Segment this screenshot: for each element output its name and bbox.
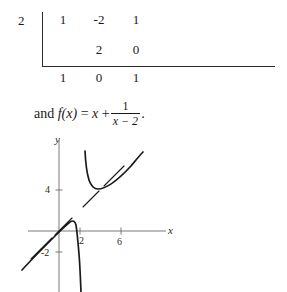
y-tick-label-4: 4 xyxy=(45,184,50,195)
formula-function-name: f(x) xyxy=(58,106,77,121)
fraction-denominator: x − 2 xyxy=(111,115,140,128)
x-axis-label: x xyxy=(167,224,173,236)
x-tick-label-2: 2 xyxy=(79,235,84,246)
table-row: 1 0 1 xyxy=(42,70,182,86)
carry-value-1: 2 xyxy=(87,42,111,58)
formula-fraction: 1x − 2 xyxy=(111,100,140,128)
curve-right-branch xyxy=(85,151,143,189)
synthetic-division-table: 2 1 -2 1 2 0 1 0 1 xyxy=(0,0,287,92)
fraction-numerator: 1 xyxy=(111,100,140,112)
table-row: 1 -2 1 xyxy=(42,12,182,28)
quotient-value-1: 0 xyxy=(87,70,111,86)
worked-solution-figure: 2 1 -2 1 2 0 1 0 1 and f(x) = x +1x − 2. xyxy=(0,0,287,292)
function-formula: and f(x) = x +1x − 2. xyxy=(34,100,145,128)
graph-ticks xyxy=(56,190,122,252)
quotient-remainder: 1 xyxy=(124,70,148,86)
dividend-coefficient-1: -2 xyxy=(87,12,111,28)
formula-prefix: and xyxy=(34,106,54,121)
y-axis-label: y xyxy=(54,133,60,145)
table-row: 2 0 xyxy=(42,42,182,58)
formula-linear-term: x xyxy=(92,106,98,121)
x-tick-label-6: 6 xyxy=(117,236,122,247)
function-graph: 2 6 4 -2 y x xyxy=(0,128,287,292)
quotient-value-0: 1 xyxy=(51,70,75,86)
dividend-coefficient-0: 1 xyxy=(51,12,75,28)
carry-value-2: 0 xyxy=(124,42,148,58)
formula-period: . xyxy=(141,106,145,121)
dividend-coefficient-2: 1 xyxy=(124,12,148,28)
graph-axes xyxy=(28,140,166,292)
formula-plus: + xyxy=(102,106,110,121)
synthetic-division-divisor: 2 xyxy=(18,14,25,28)
synthetic-division-horizontal-rule xyxy=(42,66,275,67)
curve-left-branch xyxy=(22,221,81,292)
formula-equals: = xyxy=(81,106,89,121)
